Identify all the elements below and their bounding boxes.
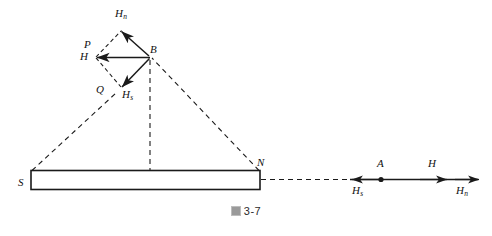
label-point-p: P (84, 39, 91, 50)
axial-point-marker (378, 177, 383, 182)
figure-container: Hn P H B Q Hs S N A Hs H Hn 3-7 (0, 0, 492, 236)
label-axial-h: H (428, 158, 436, 169)
dashed-line-south-to-b (32, 93, 116, 171)
dashed-line-north-to-b (152, 58, 259, 171)
label-vector-hs: Hs (122, 89, 133, 100)
label-point-b: B (150, 44, 157, 55)
label-north-pole: N (257, 157, 264, 168)
vector-hn-arrow (122, 32, 150, 57)
label-point-q: Q (96, 84, 104, 95)
label-axial-hn: Hn (456, 185, 468, 196)
label-south-pole: S (18, 177, 24, 188)
label-axial-hs: Hs (352, 185, 363, 196)
label-vector-hn: Hn (115, 8, 127, 19)
diagram-canvas (0, 0, 492, 236)
parallelogram-side-upper-left (96, 31, 122, 58)
vector-hs-arrow (122, 59, 150, 88)
label-vector-h: H (80, 51, 88, 62)
figure-caption: 3-7 (0, 205, 492, 217)
bar-magnet-body (31, 171, 260, 190)
cjk-glyph-icon (231, 206, 241, 216)
label-axial-point-a: A (377, 158, 384, 169)
figure-caption-number: 3-7 (244, 205, 261, 217)
